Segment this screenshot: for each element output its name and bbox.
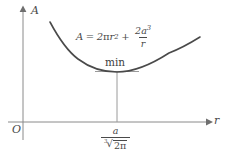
tick-numerator: a xyxy=(109,126,123,137)
fraction-denominator: r xyxy=(139,37,148,49)
equation-lhs: A xyxy=(76,31,83,42)
fraction-numerator: 2a3 xyxy=(133,25,153,37)
y-axis-label: A xyxy=(31,5,39,16)
x-axis-label: r xyxy=(214,115,219,126)
pi-symbol: π xyxy=(103,31,110,42)
origin-label: O xyxy=(12,124,21,135)
radicand: 2π xyxy=(113,140,127,151)
numerator-exponent: 3 xyxy=(147,24,151,32)
y-axis-arrowhead xyxy=(20,6,27,13)
equation-annotation: A = 2 π r 2 + 2a3 r xyxy=(76,25,154,48)
minimum-label: min xyxy=(105,57,125,68)
equation-equals-sign: = xyxy=(86,31,94,42)
cube-root-radical: 3 √ 2π xyxy=(104,140,127,151)
equation-plus-sign: + xyxy=(121,31,129,42)
x-axis-arrowhead xyxy=(206,119,213,126)
equation-fraction: 2a3 r xyxy=(133,25,153,48)
radical-index: 3 xyxy=(104,139,108,145)
tick-denominator: 3 √ 2π xyxy=(101,137,130,151)
x-tick-label-minimum: a 3 √ 2π xyxy=(101,126,130,150)
math-figure-min-surface-area: A r O min A = 2 π r 2 + 2a3 r a 3 √ 2π xyxy=(0,0,228,161)
radicand-pi-symbol: π xyxy=(120,140,126,151)
equation-exponent: 2 xyxy=(114,33,118,41)
